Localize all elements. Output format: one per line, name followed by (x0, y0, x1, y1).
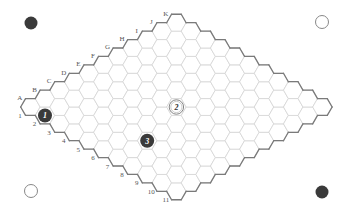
column-label: K (163, 10, 168, 18)
column-label: C (47, 77, 52, 85)
column-label: H (120, 35, 125, 43)
row-label: 2 (33, 120, 37, 128)
corner-marker-top-right-light-circle-icon (316, 16, 329, 29)
row-label: 6 (91, 154, 95, 162)
hex-board[interactable]: ABCDEFGHIJK1234567891011 123 (0, 0, 349, 214)
column-label: B (32, 86, 37, 94)
row-label: 3 (47, 129, 51, 137)
column-label: D (61, 69, 66, 77)
corner-marker-bottom-left-light-circle-icon (25, 185, 38, 198)
column-label: F (91, 52, 95, 60)
row-label: 10 (148, 188, 156, 196)
stone-move-2[interactable]: 2 (169, 100, 183, 114)
move-number: 3 (144, 137, 149, 146)
row-label: 1 (18, 112, 22, 120)
column-label: G (105, 43, 110, 51)
move-number: 2 (173, 103, 178, 112)
row-label: 11 (163, 196, 170, 204)
column-label: J (150, 18, 153, 26)
move-number: 1 (43, 111, 47, 120)
row-label: 8 (120, 171, 124, 179)
corner-marker-bottom-right-dark-circle-icon (316, 186, 329, 199)
stone-move-3[interactable]: 3 (140, 134, 154, 148)
row-label: 7 (106, 163, 110, 171)
column-label: A (17, 94, 22, 102)
column-label: I (136, 27, 139, 35)
column-label: E (76, 60, 80, 68)
stone-move-1[interactable]: 1 (38, 108, 52, 122)
row-label: 4 (62, 137, 66, 145)
row-label: 9 (135, 179, 139, 187)
row-label: 5 (77, 146, 81, 154)
corner-marker-top-left-dark-circle-icon (25, 17, 38, 30)
